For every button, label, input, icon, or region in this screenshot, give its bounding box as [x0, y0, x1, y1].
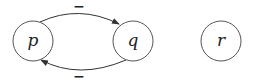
node-r-label: r	[217, 30, 226, 50]
edge-label-q-to-p: −	[73, 68, 85, 81]
edge-p-to-q	[40, 13, 119, 24]
node-q-label: q	[128, 30, 139, 50]
graph-diagram: − − p q r	[0, 0, 253, 81]
edge-label-p-to-q: −	[73, 0, 85, 14]
node-p-label: p	[28, 30, 39, 50]
node-q: q	[113, 21, 153, 61]
node-r: r	[201, 21, 241, 61]
node-p: p	[13, 21, 53, 61]
